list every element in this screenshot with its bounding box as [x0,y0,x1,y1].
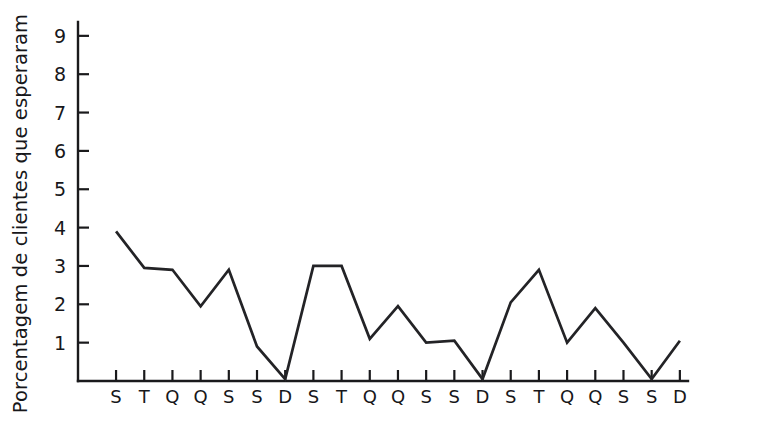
x-tick-label: S [251,386,262,407]
x-tick-label: S [110,386,121,407]
x-tick-label: S [618,386,629,407]
y-tick-labels: 123456789 [54,25,66,354]
y-tick-label: 8 [54,63,66,85]
line-chart-figure: Porcentagem de clientes que esperaram 12… [0,0,765,427]
y-tick-label: 6 [54,140,66,162]
x-tick-label: S [420,386,431,407]
x-tick-label: S [308,386,319,407]
y-tick-label: 3 [54,255,66,277]
y-tick-label: 4 [54,217,66,239]
y-tick-label: 2 [54,293,66,315]
x-tick-label: T [138,386,151,407]
x-tick-marks [116,370,680,382]
y-tick-label: 7 [54,102,66,124]
x-tick-label: D [673,386,687,407]
x-tick-label: Q [165,386,179,407]
x-tick-label: Q [363,386,377,407]
y-tick-label: 5 [54,178,66,200]
x-tick-label: Q [194,386,208,407]
x-tick-label: S [223,386,234,407]
y-tick-label: 9 [54,25,66,47]
data-series-line [116,231,680,379]
x-tick-label: S [505,386,516,407]
chart-plot-area: 123456789 STQQSSDSTQQSSDSTQQSSD [0,0,765,427]
x-tick-label: S [646,386,657,407]
x-tick-label: S [449,386,460,407]
x-tick-label: D [278,386,292,407]
x-tick-label: T [532,386,545,407]
x-tick-label: Q [588,386,602,407]
x-tick-label: D [476,386,490,407]
x-tick-labels: STQQSSDSTQQSSDSTQQSSD [110,386,686,407]
y-tick-label: 1 [54,332,66,354]
x-tick-label: T [335,386,348,407]
x-tick-label: Q [391,386,405,407]
x-tick-label: Q [560,386,574,407]
